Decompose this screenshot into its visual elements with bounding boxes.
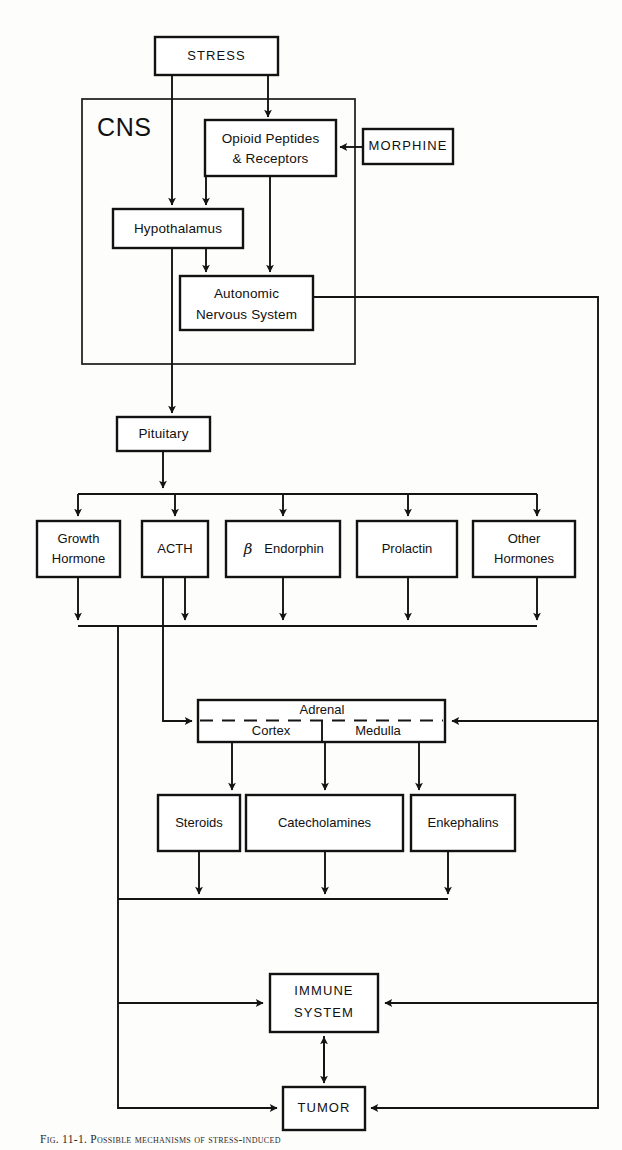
node-acth[interactable]: ACTH [142, 521, 208, 577]
node-pituitary-label: Pituitary [138, 426, 188, 441]
node-autonomic-line2: Nervous System [196, 307, 297, 322]
edge-right-margin-to-tumor [371, 711, 598, 1108]
node-immune-system-line2: SYSTEM [294, 1005, 354, 1020]
node-tumor[interactable]: TUMOR [283, 1087, 365, 1130]
node-morphine[interactable]: MORPHINE [363, 129, 453, 164]
node-acth-label: ACTH [157, 541, 192, 556]
node-autonomic-line1: Autonomic [214, 286, 279, 301]
node-hypothalamus[interactable]: Hypothalamus [113, 209, 243, 248]
node-growth-hormone[interactable]: Growth Hormone [37, 521, 120, 577]
node-growth-hormone-line1: Growth [58, 531, 100, 546]
node-autonomic-nervous-system[interactable]: Autonomic Nervous System [180, 276, 313, 330]
node-adrenal-medulla-label: Medulla [355, 723, 401, 738]
node-other-hormones[interactable]: Other Hormones [473, 521, 575, 577]
node-prolactin-label: Prolactin [382, 541, 433, 556]
node-steroids[interactable]: Steroids [158, 795, 240, 851]
node-pituitary[interactable]: Pituitary [117, 417, 210, 451]
node-adrenal[interactable]: Adrenal Cortex Medulla [198, 700, 445, 742]
neuroimmune-flow-diagram: STRESS CNS Opioid Peptides & Receptors M… [0, 0, 622, 1150]
node-opioid-line1: Opioid Peptides [222, 131, 320, 146]
node-growth-hormone-line2: Hormone [52, 551, 105, 566]
node-morphine-label: MORPHINE [369, 138, 448, 153]
node-catecholamines[interactable]: Catecholamines [246, 795, 403, 851]
node-other-hormones-line2: Hormones [494, 551, 554, 566]
node-enkephalins[interactable]: Enkephalins [411, 795, 515, 851]
edge-acth-to-adrenal-cortex [163, 576, 192, 721]
figure-caption-text: Fig. 11-1. Possible mechanisms of stress… [40, 1133, 281, 1145]
node-adrenal-title: Adrenal [300, 702, 345, 717]
figure-caption: Fig. 11-1. Possible mechanisms of stress… [40, 1132, 585, 1146]
node-catecholamines-label: Catecholamines [278, 815, 372, 830]
node-stress-label: STRESS [187, 48, 246, 63]
node-prolactin[interactable]: Prolactin [357, 521, 457, 577]
figure-root: STRESS CNS Opioid Peptides & Receptors M… [0, 0, 622, 1150]
node-enkephalins-label: Enkephalins [428, 815, 499, 830]
node-beta-endorphin-symbol: β [243, 540, 253, 558]
node-immune-system-line1: IMMUNE [294, 983, 353, 998]
node-hypothalamus-label: Hypothalamus [134, 221, 222, 236]
node-opioid-line2: & Receptors [233, 151, 309, 166]
node-beta-endorphin[interactable]: β Endorphin [226, 521, 340, 577]
node-beta-endorphin-label: Endorphin [264, 541, 323, 556]
node-other-hormones-line1: Other [508, 531, 541, 546]
cns-group-label: CNS [97, 113, 152, 141]
node-immune-system[interactable]: IMMUNE SYSTEM [270, 974, 378, 1032]
left-margin-bus [118, 626, 277, 1108]
node-tumor-label: TUMOR [297, 1100, 350, 1115]
node-stress[interactable]: STRESS [155, 37, 278, 75]
node-steroids-label: Steroids [175, 815, 223, 830]
node-opioid-peptides[interactable]: Opioid Peptides & Receptors [205, 120, 336, 176]
node-adrenal-cortex-label: Cortex [252, 723, 291, 738]
